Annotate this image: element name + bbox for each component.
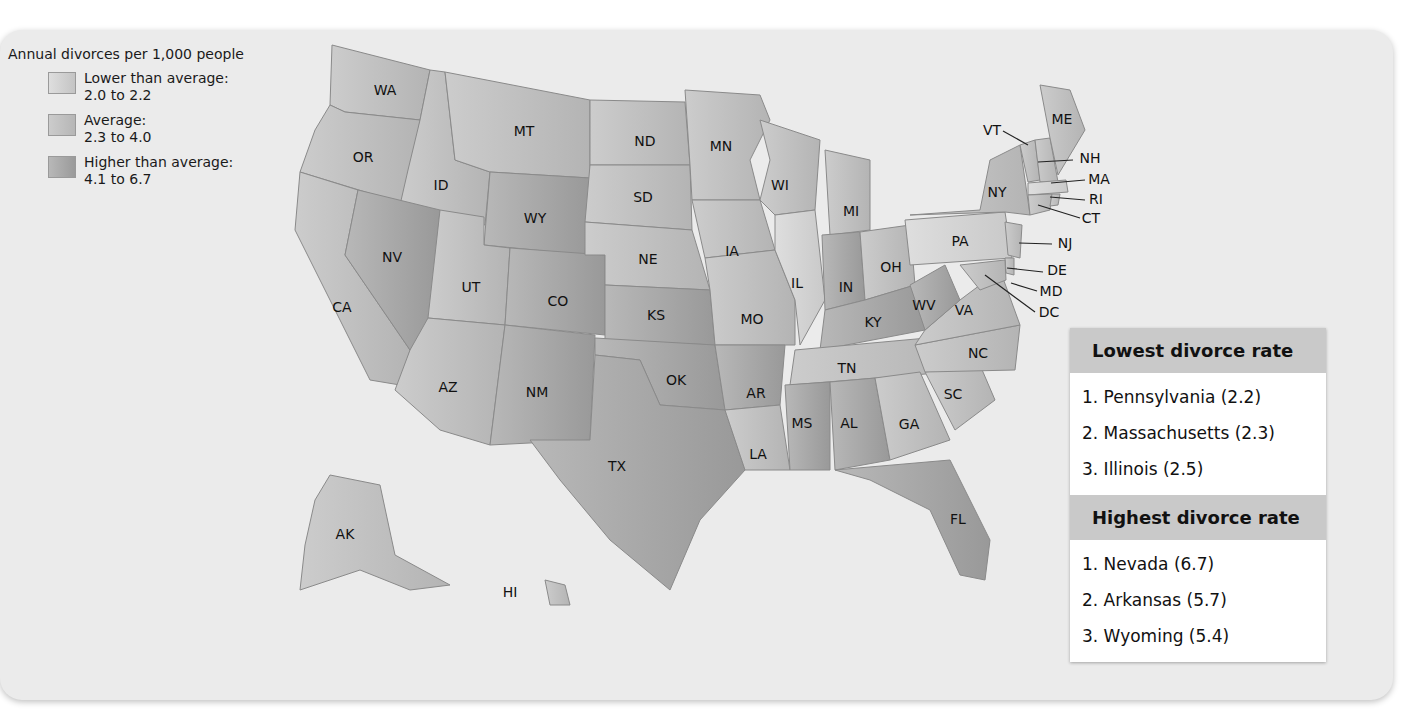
label-nh: NH <box>1080 150 1101 166</box>
label-mo: MO <box>740 311 763 327</box>
rankings-panel: Lowest divorce rate 1. Pennsylvania (2.2… <box>1070 328 1326 662</box>
label-in: IN <box>839 279 854 295</box>
swatch-average-icon <box>48 114 76 136</box>
state-nj[interactable] <box>1005 222 1022 258</box>
label-ok: OK <box>666 372 687 388</box>
list-item: 3. Wyoming (5.4) <box>1070 618 1326 654</box>
state-ak[interactable] <box>300 475 450 590</box>
legend-item-lower: Lower than average:2.0 to 2.2 <box>8 70 308 104</box>
label-mn: MN <box>710 138 733 154</box>
state-hi[interactable] <box>545 580 570 605</box>
label-pa: PA <box>951 233 969 249</box>
label-wv: WV <box>912 297 936 313</box>
state-co[interactable] <box>505 248 605 335</box>
label-nm: NM <box>526 384 549 400</box>
label-al: AL <box>840 415 858 431</box>
state-mi[interactable] <box>825 150 870 235</box>
label-ms: MS <box>792 415 813 431</box>
legend-label: Average: <box>84 112 151 129</box>
label-id: ID <box>434 177 449 193</box>
state-fl[interactable] <box>835 460 990 580</box>
label-ri: RI <box>1089 191 1103 207</box>
legend-range: 4.1 to 6.7 <box>84 171 233 188</box>
legend-label: Lower than average: <box>84 70 229 87</box>
list-item: 3. Illinois (2.5) <box>1070 451 1326 487</box>
state-ct[interactable] <box>1028 194 1052 215</box>
label-sc: SC <box>944 386 963 402</box>
label-tn: TN <box>836 360 856 376</box>
lowest-list: 1. Pennsylvania (2.2) 2. Massachusetts (… <box>1070 373 1326 495</box>
label-or: OR <box>353 149 374 165</box>
label-tx: TX <box>607 458 627 474</box>
label-nv: NV <box>382 249 402 265</box>
state-wi[interactable] <box>760 120 820 215</box>
label-nj: NJ <box>1058 235 1073 251</box>
label-la: LA <box>749 446 767 462</box>
label-vt: VT <box>983 122 1002 138</box>
label-wy: WY <box>524 210 547 226</box>
highest-heading: Highest divorce rate <box>1070 495 1326 540</box>
legend-item-higher: Higher than average:4.1 to 6.7 <box>8 154 308 188</box>
label-co: CO <box>548 293 569 309</box>
legend-range: 2.0 to 2.2 <box>84 87 229 104</box>
label-dc: DC <box>1039 304 1060 320</box>
label-wa: WA <box>374 82 397 98</box>
legend-label: Higher than average: <box>84 154 233 171</box>
label-fl: FL <box>950 511 966 527</box>
label-mt: MT <box>514 123 535 139</box>
label-il: IL <box>791 275 803 291</box>
list-item: 2. Arkansas (5.7) <box>1070 582 1326 618</box>
list-item: 1. Pennsylvania (2.2) <box>1070 379 1326 415</box>
label-ny: NY <box>987 184 1006 200</box>
state-ny[interactable] <box>910 145 1030 215</box>
legend-range: 2.3 to 4.0 <box>84 129 151 146</box>
label-ks: KS <box>647 307 665 323</box>
state-ri[interactable] <box>1050 194 1060 206</box>
legend-title: Annual divorces per 1,000 people <box>8 46 308 62</box>
swatch-lower-icon <box>48 72 76 94</box>
label-mi: MI <box>843 203 859 219</box>
label-ca: CA <box>332 299 352 315</box>
label-ct: CT <box>1082 210 1101 226</box>
swatch-higher-icon <box>48 156 76 178</box>
label-ky: KY <box>864 314 882 330</box>
label-wi: WI <box>771 177 789 193</box>
label-md: MD <box>1040 283 1063 299</box>
highest-list: 1. Nevada (6.7) 2. Arkansas (5.7) 3. Wyo… <box>1070 540 1326 662</box>
label-ma: MA <box>1088 171 1110 187</box>
label-ut: UT <box>462 279 481 295</box>
label-me: ME <box>1052 111 1073 127</box>
label-sd: SD <box>633 189 653 205</box>
label-ga: GA <box>899 416 920 432</box>
label-nc: NC <box>968 345 988 361</box>
label-ar: AR <box>746 385 766 401</box>
lowest-heading: Lowest divorce rate <box>1070 328 1326 373</box>
label-ak: AK <box>336 526 356 542</box>
legend: Annual divorces per 1,000 people Lower t… <box>8 46 308 196</box>
label-va: VA <box>955 302 974 318</box>
label-nd: ND <box>634 133 655 149</box>
list-item: 2. Massachusetts (2.3) <box>1070 415 1326 451</box>
label-oh: OH <box>880 259 902 275</box>
state-de[interactable] <box>1005 258 1014 275</box>
legend-item-average: Average:2.3 to 4.0 <box>8 112 308 146</box>
list-item: 1. Nevada (6.7) <box>1070 546 1326 582</box>
label-az: AZ <box>438 379 457 395</box>
label-ne: NE <box>638 251 657 267</box>
label-de: DE <box>1047 262 1067 278</box>
state-in[interactable] <box>822 232 865 310</box>
label-ia: IA <box>725 243 739 259</box>
label-hi: HI <box>503 584 518 600</box>
